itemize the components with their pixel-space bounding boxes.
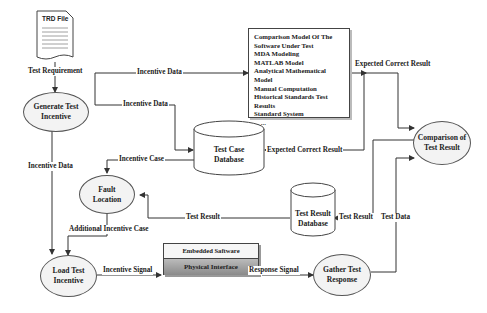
- gather-test-response-node: Gather TestResponse: [313, 254, 371, 296]
- test-case-database: Test CaseDatabase: [193, 120, 265, 176]
- edge-label-test-requirement: Test Requirement: [27, 67, 84, 76]
- edge-label-test-result-left: Test Result: [185, 213, 221, 222]
- box-line: Results: [254, 102, 344, 111]
- edge-label-incentive-data-mid: Incentive Data: [122, 100, 169, 109]
- load-test-incentive-node: Load TestIncentive: [40, 255, 97, 297]
- edge-label-additional-incentive-case: Additional Incentive Case: [68, 225, 149, 234]
- edge-label-expected-correct-result-top: Expected Correct Result: [354, 60, 431, 69]
- physical-interface-layer: Physical Interface: [164, 259, 258, 275]
- node-line: Incentive: [53, 276, 85, 286]
- edge-label-incentive-data-left: Incentive Data: [27, 162, 74, 171]
- db-line: Database: [193, 155, 265, 165]
- edge-label-response-signal: Response Signal: [248, 266, 300, 275]
- box-line: Software Under Test: [254, 42, 344, 51]
- node-line: Comparison of: [418, 133, 466, 143]
- edge-label-incentive-data-top: Incentive Data: [136, 68, 183, 77]
- db-line: Test Result: [290, 209, 336, 219]
- node-line: Load Test: [53, 266, 85, 276]
- box-line: MDA Modeling: [254, 50, 344, 59]
- generate-test-incentive-node: Generate TestIncentive: [23, 92, 89, 132]
- edge-label-test-data: Test Data: [380, 213, 411, 222]
- node-line: Location: [93, 195, 122, 205]
- box-line: Historical Standards Test: [254, 93, 344, 102]
- box-line: Comparison Model Of The: [254, 33, 344, 42]
- box-line: ... ...: [254, 119, 344, 128]
- node-line: Gather Test: [323, 265, 361, 275]
- edge-label-incentive-signal: Incentive Signal: [102, 266, 153, 275]
- embedded-device: Embedded Saftware Physical Interface: [163, 243, 259, 275]
- edge-label-test-result-right: Test Result: [338, 213, 374, 222]
- embedded-software-layer: Embedded Saftware: [164, 244, 258, 259]
- edge-label-incentive-case: Incentive Case: [118, 155, 165, 164]
- db-line: Database: [290, 219, 336, 229]
- node-line: Generate Test: [34, 102, 79, 112]
- edge-label-expected-correct-result-mid: Expected Correct Result: [266, 146, 343, 155]
- node-line: Test Result: [418, 143, 466, 153]
- comparison-model-box: Comparison Model Of The Software Under T…: [248, 28, 350, 118]
- test-result-database: Test ResultDatabase: [290, 182, 336, 238]
- box-line: Analytical Mathematical Model: [254, 67, 344, 84]
- node-line: Fault: [93, 185, 122, 195]
- box-line: Manual Computation: [254, 85, 344, 94]
- box-line: MATLAB Model: [254, 59, 344, 68]
- box-line: Standard System: [254, 110, 344, 119]
- node-line: Response: [323, 275, 361, 285]
- fault-location-node: FaultLocation: [79, 175, 135, 214]
- db-line: Test Case: [193, 145, 265, 155]
- trd-file-label: TRD File: [42, 15, 68, 22]
- comparison-of-test-result-node: Comparison ofTest Result: [413, 121, 471, 165]
- node-line: Incentive: [34, 112, 79, 122]
- trd-file-document: TRD File: [36, 10, 74, 66]
